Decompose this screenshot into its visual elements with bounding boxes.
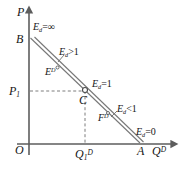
quantity-axis-text: Q <box>75 147 84 161</box>
quantity-axis-label: Q1D <box>75 148 93 160</box>
origin-label: O <box>15 144 24 156</box>
point-f-sup: D <box>104 112 108 119</box>
price-axis-sub: 1 <box>16 90 20 99</box>
elasticity-label-upper: Ed>1 <box>59 47 79 57</box>
point-f-label: FD <box>98 113 109 123</box>
elasticity-label-infinity: Ed=∞ <box>33 22 55 32</box>
demand-curve-inner <box>35 37 144 142</box>
x-axis-label: QD <box>152 145 166 157</box>
x-axis-label-sup: D <box>161 145 166 154</box>
x-axis-label-text: Q <box>152 144 161 158</box>
elasticity-label-unit: Ed=1 <box>92 79 112 89</box>
elasticity-val-mid: 1 <box>107 78 112 89</box>
point-b-label: B <box>16 33 23 45</box>
demand-elasticity-figure: P QD O B A C ED FD P1 Q1D Ed=∞ Ed>1 Ed=1… <box>0 0 185 173</box>
elasticity-label-lower: Ed<1 <box>117 104 137 114</box>
quantity-axis-sup: D <box>87 148 92 157</box>
elasticity-val-a: 0 <box>151 126 156 137</box>
point-e-marker <box>56 66 59 69</box>
elasticity-val-b: ∞ <box>48 21 55 32</box>
elasticity-val-upper: 1 <box>74 46 79 57</box>
point-e-label: ED <box>45 67 56 77</box>
point-c-marker <box>83 88 88 93</box>
price-axis-label: P1 <box>9 85 20 97</box>
point-a-label: A <box>137 145 144 157</box>
elasticity-label-zero: Ed=0 <box>136 127 156 137</box>
point-e-sup: D <box>51 66 55 73</box>
point-c-label: C <box>79 94 87 106</box>
elasticity-val-lower: 1 <box>132 103 137 114</box>
y-axis-label: P <box>17 6 24 18</box>
